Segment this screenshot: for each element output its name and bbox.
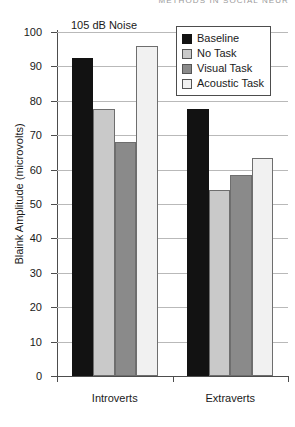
x-axis-tick	[57, 376, 58, 382]
legend-swatch-icon	[182, 79, 192, 89]
y-axis-tick-label: 40	[30, 232, 42, 244]
y-axis-tick: 20	[51, 307, 57, 308]
legend-swatch-icon	[182, 49, 192, 59]
legend-item-label: Visual Task	[197, 63, 252, 74]
legend-item-label: Acoustic Task	[197, 78, 264, 89]
bar	[136, 46, 158, 376]
legend-item: No Task	[182, 46, 264, 61]
y-axis-tick: 50	[51, 204, 57, 205]
y-axis-tick-label: 90	[30, 60, 42, 72]
bar-chart-figure: Blaink Amplitude (microvolts) 105 dB Noi…	[0, 0, 295, 427]
y-axis-tick: 100	[51, 32, 57, 33]
chart-annotation: 105 dB Noise	[71, 19, 137, 31]
y-axis-tick: 40	[51, 238, 57, 239]
y-axis-tick-label: 70	[30, 129, 42, 141]
y-axis-tick: 70	[51, 135, 57, 136]
y-axis-tick-label: 80	[30, 95, 42, 107]
y-axis-title: Blaink Amplitude (microvolts)	[13, 99, 25, 289]
y-axis-tick-label: 0	[36, 370, 42, 382]
y-axis-tick-label: 20	[30, 301, 42, 313]
legend-item: Baseline	[182, 31, 264, 46]
y-axis-tick: 30	[51, 273, 57, 274]
legend-item: Visual Task	[182, 61, 264, 76]
bar	[230, 175, 252, 376]
x-axis-category-label: Extraverts	[205, 392, 255, 404]
bar	[252, 158, 274, 376]
chart-legend: BaselineNo TaskVisual TaskAcoustic Task	[176, 26, 271, 96]
y-axis-tick-label: 50	[30, 198, 42, 210]
legend-swatch-icon	[182, 34, 192, 44]
y-axis-tick: 10	[51, 342, 57, 343]
legend-swatch-icon	[182, 64, 192, 74]
bar	[209, 190, 231, 376]
bar	[187, 109, 209, 376]
bar	[115, 142, 137, 376]
y-axis-tick-label: 10	[30, 336, 42, 348]
y-axis-tick: 80	[51, 101, 57, 102]
legend-item-label: No Task	[197, 48, 237, 59]
x-axis-category-label: Introverts	[92, 392, 138, 404]
bar	[72, 58, 94, 376]
y-axis-tick: 60	[51, 170, 57, 171]
legend-item: Acoustic Task	[182, 76, 264, 91]
y-axis-tick: 90	[51, 66, 57, 67]
legend-item-label: Baseline	[197, 33, 239, 44]
x-axis-tick	[288, 376, 289, 382]
bar	[93, 109, 115, 376]
y-axis-tick-label: 60	[30, 164, 42, 176]
y-axis-tick-label: 100	[24, 26, 42, 38]
x-axis-tick	[173, 376, 174, 382]
y-axis-tick-label: 30	[30, 267, 42, 279]
